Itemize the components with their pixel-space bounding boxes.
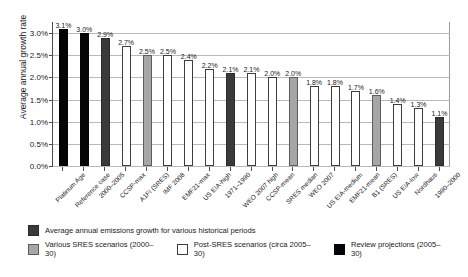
bar-slot: 3.0%	[74, 22, 95, 166]
bar-slot: 2.5%	[157, 22, 178, 166]
bar[interactable]: 1.6%	[372, 95, 381, 166]
bar[interactable]: 2.1%	[247, 73, 256, 166]
x-label-slot: CCSP-mean	[262, 170, 283, 220]
x-axis-labels: Platinum AgeReference case2000–2005CCSP-…	[52, 170, 450, 220]
bar-slot: 1.8%	[304, 22, 325, 166]
y-tick-label: 0.0%	[30, 162, 53, 171]
x-label-slot: EMF21-mean	[345, 170, 366, 220]
chart-root: Average annual growth rate 3.0%2.5%2.0%1…	[0, 0, 468, 277]
legend-swatch-review-icon	[334, 244, 345, 255]
legend-item-sres: Various SRES scenarios (2000–30)	[28, 240, 163, 258]
y-tick-label: 3.0%	[30, 29, 53, 38]
bar-value-label: 1.6%	[369, 88, 385, 95]
x-label-slot: US EIA-low	[387, 170, 408, 220]
legend-item-review: Review projections (2005–30)	[334, 240, 450, 258]
x-label-slot: CCSP-max	[115, 170, 136, 220]
bar-value-label: 2.2%	[202, 62, 218, 69]
bar[interactable]: 1.8%	[310, 86, 319, 166]
bar-slot: 1.7%	[345, 22, 366, 166]
bar-value-label: 1.7%	[348, 84, 364, 91]
plot-area: 3.0%2.5%2.0%1.5%1.0%0.5%0.0% 3.1%3.0%2.9…	[52, 22, 450, 167]
x-label-slot: EMF21-max	[178, 170, 199, 220]
x-label-slot: A1FI (SRES)	[136, 170, 157, 220]
legend-swatch-sres-icon	[28, 244, 39, 255]
bar[interactable]: 1.1%	[435, 117, 444, 166]
legend-row-2: Various SRES scenarios (2000–30) Post-SR…	[28, 240, 464, 258]
bar-value-label: 2.4%	[181, 53, 197, 60]
x-label-slot: IMF 2008	[157, 170, 178, 220]
chart-legend: Average annual emissions growth for vari…	[28, 225, 464, 262]
legend-row-1: Average annual emissions growth for vari…	[28, 225, 464, 236]
x-label-slot: 1990–2000	[429, 170, 450, 220]
bar-slot: 2.5%	[137, 22, 158, 166]
bar-slot: 2.9%	[95, 22, 116, 166]
x-label-slot: Nordhaus	[408, 170, 429, 220]
x-label-slot: Reference case	[73, 170, 94, 220]
bar[interactable]: 2.7%	[122, 46, 131, 166]
bar-slot: 2.2%	[199, 22, 220, 166]
bar[interactable]: 2.2%	[205, 69, 214, 166]
bar[interactable]: 2.5%	[163, 55, 172, 166]
legend-label-sres: Various SRES scenarios (2000–30)	[45, 240, 163, 258]
bar-slot: 2.1%	[241, 22, 262, 166]
bar-slot: 2.1%	[220, 22, 241, 166]
x-label-slot: 2000–2005	[94, 170, 115, 220]
bar[interactable]: 2.4%	[184, 60, 193, 166]
x-label-slot: WEO 2007 high	[241, 170, 262, 220]
bar-value-label: 2.5%	[160, 48, 176, 55]
bar[interactable]: 2.1%	[226, 73, 235, 166]
legend-item-historical: Average annual emissions growth for vari…	[28, 225, 255, 236]
y-tick-label: 1.5%	[30, 95, 53, 104]
y-tick-label: 0.5%	[30, 139, 53, 148]
bar-value-label: 2.1%	[223, 66, 239, 73]
y-tick-label: 2.5%	[30, 51, 53, 60]
bar-value-label: 2.7%	[118, 39, 134, 46]
bar[interactable]: 1.8%	[331, 86, 340, 166]
bar-value-label: 3.1%	[55, 22, 71, 29]
legend-swatch-historical-icon	[28, 225, 39, 236]
bar[interactable]: 1.3%	[414, 108, 423, 166]
bar-value-label: 2.5%	[139, 48, 155, 55]
bar-value-label: 2.1%	[243, 66, 259, 73]
bar-value-label: 2.9%	[97, 31, 113, 38]
x-label-slot: Platinum Age	[52, 170, 73, 220]
bar[interactable]: 2.9%	[101, 38, 110, 166]
bar[interactable]: 1.7%	[351, 91, 360, 166]
bar-slot: 2.0%	[262, 22, 283, 166]
bar-slot: 2.7%	[116, 22, 137, 166]
bar[interactable]: 2.0%	[268, 77, 277, 166]
bar-value-label: 2.0%	[264, 70, 280, 77]
bar[interactable]: 3.1%	[59, 29, 68, 166]
bar-slot: 3.1%	[53, 22, 74, 166]
bar-value-label: 1.4%	[390, 97, 406, 104]
bar[interactable]: 3.0%	[80, 33, 89, 166]
legend-label-review: Review projections (2005–30)	[351, 240, 450, 258]
bar-value-label: 1.1%	[431, 110, 447, 117]
x-label-slot: US EIA-high	[199, 170, 220, 220]
bar-value-label: 1.8%	[327, 79, 343, 86]
bar-value-label: 3.0%	[76, 26, 92, 33]
y-tick-label: 2.0%	[30, 73, 53, 82]
x-label-slot: B1 (SRES)	[366, 170, 387, 220]
x-label-slot: SRES median	[282, 170, 303, 220]
bar-slot: 2.0%	[283, 22, 304, 166]
x-label-slot: WEO 2007	[303, 170, 324, 220]
y-axis-title: Average annual growth rate	[18, 0, 28, 142]
bar-slot: 1.6%	[366, 22, 387, 166]
bar-slot: 1.4%	[387, 22, 408, 166]
x-label-slot: US EIA-medium	[324, 170, 345, 220]
bar-slot: 1.8%	[325, 22, 346, 166]
bar-slot: 1.3%	[408, 22, 429, 166]
bar-slot: 1.1%	[429, 22, 450, 166]
bar[interactable]: 1.4%	[393, 104, 402, 166]
legend-label-post-sres: Post-SRES scenarios (circa 2005–30)	[194, 240, 320, 258]
bar-value-label: 1.8%	[306, 79, 322, 86]
bar[interactable]: 2.0%	[289, 77, 298, 166]
bar-slot: 2.4%	[178, 22, 199, 166]
bar[interactable]: 2.5%	[143, 55, 152, 166]
legend-label-historical: Average annual emissions growth for vari…	[45, 226, 255, 235]
x-category-label: 1990–2000	[433, 171, 461, 199]
y-tick-label: 1.0%	[30, 117, 53, 126]
bar-series: 3.1%3.0%2.9%2.7%2.5%2.5%2.4%2.2%2.1%2.1%…	[53, 22, 450, 166]
bar-value-label: 1.3%	[411, 101, 427, 108]
